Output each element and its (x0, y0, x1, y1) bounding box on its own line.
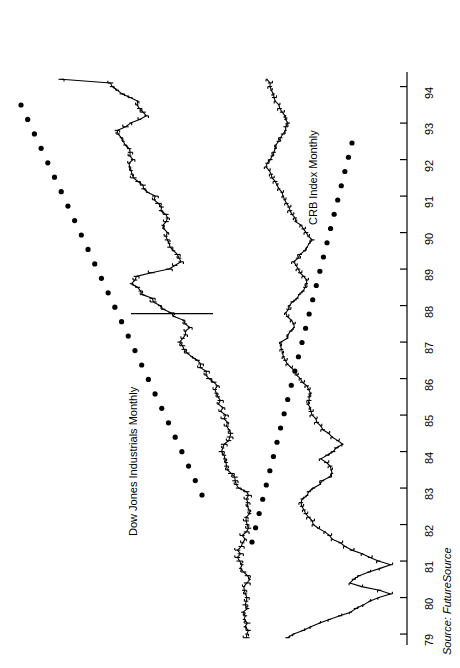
year-tick-84: 84 (423, 451, 435, 463)
year-tick-89: 89 (423, 269, 435, 281)
year-tick-90: 90 (423, 232, 435, 244)
year-tick-93: 93 (423, 123, 435, 135)
year-tick-81: 81 (423, 561, 435, 573)
year-tick-80: 80 (423, 597, 435, 609)
year-tick-94: 94 (423, 86, 435, 98)
dow-series-label: Dow Jones Industrials Monthly (127, 387, 139, 536)
source-credit: Source: FutureSource (441, 547, 453, 655)
year-tick-79: 79 (423, 634, 435, 646)
year-tick-85: 85 (423, 415, 435, 427)
dow-trendline (18, 102, 204, 497)
year-tick-87: 87 (423, 342, 435, 354)
crb-trendline (249, 140, 354, 544)
year-tick-83: 83 (423, 488, 435, 500)
year-tick-86: 86 (423, 378, 435, 390)
chart-canvas: 94939291908988878685848382818079 Dow Jon… (0, 0, 460, 668)
crb-index-series (264, 79, 392, 637)
year-axis (400, 72, 407, 645)
year-tick-92: 92 (423, 159, 435, 171)
crb-series-label: CRB Index Monthly (307, 130, 319, 225)
year-tick-91: 91 (423, 196, 435, 208)
chart-plot-area (0, 0, 460, 668)
year-tick-82: 82 (423, 524, 435, 536)
dow-jones-series (59, 79, 252, 637)
year-tick-88: 88 (423, 305, 435, 317)
